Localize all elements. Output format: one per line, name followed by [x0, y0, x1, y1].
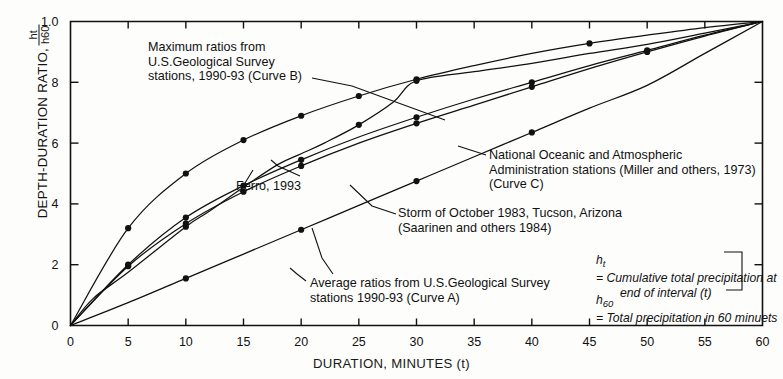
note-h60-subscript: 60 — [603, 298, 614, 309]
annotation-curve-c: National Oceanic and Atmospheric Adminis… — [489, 148, 756, 192]
svg-text:5: 5 — [125, 335, 132, 349]
data-point — [356, 122, 362, 128]
data-point — [125, 263, 131, 269]
note-ht-symbol: h — [596, 253, 603, 267]
data-point — [529, 84, 535, 90]
data-point — [413, 178, 419, 184]
leader-line-2 — [458, 146, 486, 155]
data-point — [298, 163, 304, 169]
annotation-storm: Storm of October 1983, Tucson, Arizona (… — [398, 206, 622, 235]
leader-line-6 — [312, 228, 333, 274]
svg-text:2: 2 — [52, 258, 59, 272]
note-ht-subscript: t — [603, 258, 606, 269]
y-axis-label-fraction: ht h60 — [28, 25, 51, 45]
data-point — [183, 275, 189, 281]
data-point — [183, 170, 189, 176]
data-point — [413, 78, 419, 84]
data-point — [356, 93, 362, 99]
leader-line-1 — [312, 78, 445, 120]
data-point — [298, 113, 304, 119]
x-tick-labels: 051015202530354045505560 — [67, 335, 769, 349]
data-point — [413, 120, 419, 126]
svg-text:45: 45 — [583, 335, 597, 349]
annotation-curve-a: Average ratios from U.S.Geological Surve… — [310, 276, 550, 305]
svg-text:60: 60 — [756, 335, 770, 349]
svg-text:25: 25 — [352, 335, 366, 349]
svg-text:30: 30 — [410, 335, 424, 349]
data-point — [529, 129, 535, 135]
svg-text:4: 4 — [52, 197, 59, 211]
data-point — [183, 214, 189, 220]
note-h60-text: = Total precipitation in 60 minuets — [596, 311, 777, 325]
data-point — [586, 40, 592, 46]
data-point — [125, 225, 131, 231]
data-point — [413, 114, 419, 120]
note-h60-symbol: h — [596, 293, 603, 307]
svg-text:20: 20 — [294, 335, 308, 349]
y-axis-label: DEPTH-DURATION RATIO, ht h60 — [27, 0, 50, 252]
svg-text:15: 15 — [237, 335, 251, 349]
data-point — [298, 227, 304, 233]
x-axis-label: DURATION, MINUTES (t) — [0, 356, 783, 371]
data-point — [183, 224, 189, 230]
fraction-numerator: ht — [28, 29, 39, 40]
chart-figure: 051015202530354045505560 024681.0 DEPTH-… — [0, 0, 783, 379]
leader-line-5 — [290, 268, 306, 281]
svg-text:8: 8 — [52, 76, 59, 90]
annotation-ferro: Ferro, 1993 — [236, 179, 301, 194]
fraction-denominator: h60 — [39, 25, 51, 45]
svg-text:35: 35 — [467, 335, 481, 349]
svg-text:0: 0 — [52, 319, 59, 333]
data-point — [298, 157, 304, 163]
svg-text:0: 0 — [67, 335, 74, 349]
svg-text:50: 50 — [640, 335, 654, 349]
note-h60: h60 = Total precipitation in 60 minuets — [596, 278, 777, 326]
svg-text:10: 10 — [179, 335, 193, 349]
svg-text:6: 6 — [52, 137, 59, 151]
data-point — [644, 49, 650, 55]
svg-text:55: 55 — [698, 335, 712, 349]
annotation-curve-b: Maximum ratios from U.S.Geological Surve… — [148, 40, 302, 84]
y-axis-label-text: DEPTH-DURATION RATIO, — [35, 48, 50, 218]
svg-text:40: 40 — [525, 335, 539, 349]
data-point — [240, 137, 246, 143]
